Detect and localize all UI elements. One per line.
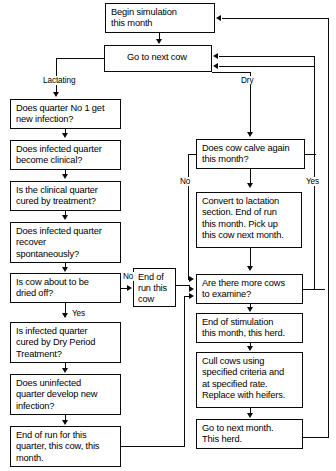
edge-label-no-dried-off: No xyxy=(122,272,134,281)
arrowhead-morecows-yes-to-nextcow xyxy=(213,53,218,59)
edge-nextmonth-v xyxy=(328,18,329,438)
edge-label-yes-dried-off: Yes xyxy=(71,309,86,318)
node-begin-simulation: Begin simulation this month xyxy=(105,3,215,33)
edge-label-no-calve: No xyxy=(179,177,191,186)
node-does-cow-calve-again: Does cow calve again this month? xyxy=(196,139,305,169)
node-cow-about-to-be-dried-off: Is cow about to be dried off? xyxy=(10,273,121,303)
arrowhead-convert-to-morecows xyxy=(247,266,253,271)
node-recover-spontaneously: Does infected quarter recover spontaneou… xyxy=(10,222,121,263)
edge-calve-yes-h2 xyxy=(219,66,315,67)
arrowhead-dryperiod-to-uninfected xyxy=(62,368,68,373)
arrowhead-calve-no-to-morecows xyxy=(189,276,194,282)
node-infected-becomes-clinical: Does infected quarter become clinical? xyxy=(10,140,121,170)
arrowhead-clinical-to-cured xyxy=(62,174,68,179)
node-convert-to-lactation-label: Convert to lactation section. End of run… xyxy=(202,196,297,242)
node-more-cows-to-examine-label: Are there more cows to examine? xyxy=(202,278,298,301)
arrowhead-q1-to-clinical xyxy=(62,133,68,138)
arrowhead-begin-to-next-cow xyxy=(156,39,162,44)
arrowhead-driedoff-no xyxy=(127,285,132,291)
arrowhead-nextmonth-to-begin xyxy=(216,15,221,21)
node-uninfected-develop-new: Does uninfected quarter develop new infe… xyxy=(10,374,121,415)
arrowhead-dry xyxy=(247,132,253,137)
node-cow-about-to-be-dried-off-label: Is cow about to be dried off? xyxy=(16,277,116,300)
edge-endrunquarter-h xyxy=(121,446,185,447)
edge-nextcow-lact-v2 xyxy=(56,58,57,92)
node-end-run-quarter: End of run for this quarter, this cow, t… xyxy=(10,426,121,467)
node-dry-period-treatment-label: Is infected quarter cured by Dry Period … xyxy=(16,326,116,360)
edge-endruncow-to-morecows-h xyxy=(176,285,190,286)
node-more-cows-to-examine: Are there more cows to examine? xyxy=(196,274,303,304)
edge-calve-no-v xyxy=(188,154,189,280)
edge-morecows-yes-v xyxy=(314,56,315,290)
edge-nextcow-lact-h xyxy=(56,58,105,59)
node-end-of-stimulation-label: End of stimulation this month, this herd… xyxy=(202,317,298,340)
edge-label-dry: Dry xyxy=(240,76,254,85)
arrowhead-lactating xyxy=(53,92,59,97)
node-clinical-cured-treatment-label: Is the clinical quarter cured by treatme… xyxy=(16,185,116,208)
node-quarter-new-infection: Does quarter No 1 get new infection? xyxy=(10,99,121,129)
arrowhead-driedoff-yes xyxy=(62,313,68,318)
flowchart-canvas: Begin simulation this month Go to next c… xyxy=(0,0,336,471)
node-end-of-run-this-cow-label: End of run this cow xyxy=(138,272,171,306)
node-recover-spontaneously-label: Does infected quarter recover spontaneou… xyxy=(16,226,116,260)
edge-morecows-yes-h2 xyxy=(219,56,315,57)
node-dry-period-treatment: Is infected quarter cured by Dry Period … xyxy=(10,322,121,363)
node-go-to-next-month: Go to next month. This herd. xyxy=(196,419,303,449)
edge-label-lactating: Lactating xyxy=(42,76,76,85)
node-convert-to-lactation: Convert to lactation section. End of run… xyxy=(196,192,302,248)
node-go-to-next-cow: Go to next cow xyxy=(104,45,212,72)
edge-convert-to-morecows xyxy=(250,248,251,268)
edge-calve-yes-v xyxy=(314,154,315,156)
edge-nextcow-dry-h xyxy=(212,72,251,73)
arrowhead-cull-to-nextmonth xyxy=(247,413,253,418)
node-uninfected-develop-new-label: Does uninfected quarter develop new infe… xyxy=(16,378,116,412)
arrowhead-endrunquarter-to-morecows xyxy=(189,293,194,299)
node-clinical-cured-treatment: Is the clinical quarter cured by treatme… xyxy=(10,181,121,211)
node-cull-cows: Cull cows using specified criteria and a… xyxy=(196,352,303,408)
arrowhead-morecows-to-endstim xyxy=(247,307,253,312)
node-end-of-run-this-cow: End of run this cow xyxy=(133,268,176,307)
edge-endrunquarter-v xyxy=(184,296,185,447)
arrowhead-endruncow-to-morecows xyxy=(189,286,194,292)
arrowhead-calve-to-convert xyxy=(247,183,253,188)
edge-nextmonth-h2 xyxy=(222,18,329,19)
edge-label-yes-calve: Yes xyxy=(305,177,320,186)
edge-nextmonth-h xyxy=(303,437,329,438)
node-quarter-new-infection-label: Does quarter No 1 get new infection? xyxy=(16,103,116,126)
node-does-cow-calve-again-label: Does cow calve again this month? xyxy=(202,143,300,166)
node-go-to-next-cow-label: Go to next cow xyxy=(127,52,207,63)
node-end-run-quarter-label: End of run for this quarter, this cow, t… xyxy=(16,430,116,464)
arrowhead-uninfected-to-endrun xyxy=(62,420,68,425)
arrowhead-recover-to-driedoff xyxy=(62,267,68,272)
node-cull-cows-label: Cull cows using specified criteria and a… xyxy=(202,356,298,402)
arrowhead-calve-yes-to-nextcow xyxy=(213,63,218,69)
node-go-to-next-month-label: Go to next month. This herd. xyxy=(202,423,298,446)
arrowhead-cured-to-recover xyxy=(62,215,68,220)
node-end-of-stimulation: End of stimulation this month, this herd… xyxy=(196,313,303,343)
node-infected-becomes-clinical-label: Does infected quarter become clinical? xyxy=(16,144,116,167)
node-begin-simulation-label: Begin simulation this month xyxy=(111,7,210,30)
arrowhead-endstim-to-cull xyxy=(247,346,253,351)
